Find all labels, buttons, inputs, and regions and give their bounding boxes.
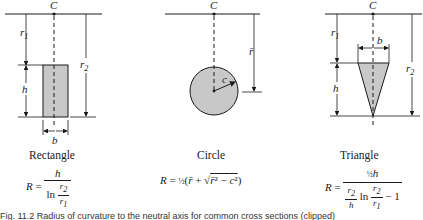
figure-caption: Fig. 11.2 Radius of curvature to the neu… [0, 211, 335, 220]
h-label-triangle: h [333, 82, 339, 94]
rectangle-shape [43, 65, 68, 117]
circle-formula: R = ½(r̄ + √r̄² − c²) [160, 174, 241, 186]
r2-label: r2 [80, 58, 88, 73]
triangle-title: Triangle [340, 149, 379, 161]
b-label-triangle: b [377, 34, 383, 46]
centroid-label-circle: C [210, 0, 217, 11]
rectangle-formula: R = h ln r2r1 [26, 166, 71, 210]
b-label: b [52, 134, 58, 146]
centroid-label-triangle: C [369, 0, 376, 11]
rbar-label: r̄ [249, 45, 253, 57]
rectangle-title: Rectangle [29, 149, 75, 161]
h-label: h [22, 83, 28, 95]
c-label: c [222, 73, 227, 85]
centroid-label-rectangle: C [50, 0, 57, 11]
r1-label: r1 [20, 26, 28, 41]
triangle-formula: R = ½h r2h ln r2r1 − 1 [325, 166, 402, 212]
r1-label-triangle: r1 [331, 26, 339, 41]
circle-panel [165, 12, 262, 115]
r2-label-triangle: r2 [406, 62, 414, 77]
circle-title: Circle [197, 149, 225, 161]
